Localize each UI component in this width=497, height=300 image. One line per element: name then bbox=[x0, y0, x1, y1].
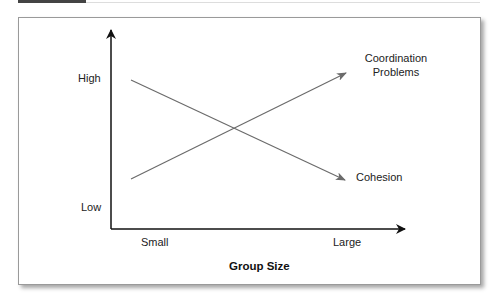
x-large-label: Large bbox=[333, 236, 361, 248]
x-small-label: Small bbox=[141, 236, 169, 248]
cohesion-label: Cohesion bbox=[356, 171, 402, 183]
coordination-problems-label: Coordination Problems bbox=[356, 51, 436, 79]
coordination-label-line2: Problems bbox=[356, 65, 436, 79]
x-axis-title: Group Size bbox=[229, 260, 290, 272]
cohesion-line bbox=[131, 80, 345, 180]
coordination-label-line1: Coordination bbox=[356, 51, 436, 65]
y-high-label: High bbox=[78, 72, 101, 84]
diagram-canvas bbox=[0, 0, 497, 300]
y-low-label: Low bbox=[81, 201, 101, 213]
coordination-problems-line bbox=[131, 73, 346, 179]
